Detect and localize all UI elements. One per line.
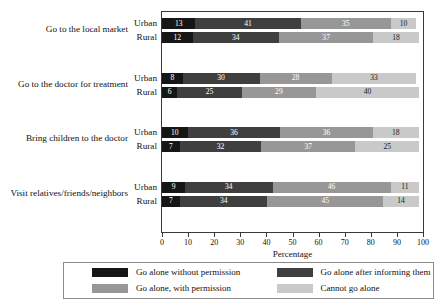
bar-segment-value: 10	[171, 129, 179, 137]
x-axis-tick-label: 70	[341, 238, 349, 247]
row-label-rural: Rural	[137, 32, 157, 43]
bar-segment-value: 36	[230, 129, 238, 137]
bar-segment: 6	[162, 87, 177, 98]
bar-segment: 30	[183, 73, 260, 84]
bar-segment-value: 46	[328, 183, 336, 191]
legend-swatch	[92, 284, 128, 293]
bar-segment: 25	[355, 141, 419, 152]
x-axis-tick	[345, 233, 346, 237]
bar-segment: 10	[162, 127, 188, 138]
bar-segment: 7	[162, 141, 180, 152]
bar-segment-value: 8	[170, 74, 174, 82]
x-axis-tick-label: 60	[315, 238, 323, 247]
bar-segment-value: 10	[400, 20, 408, 28]
x-axis-title: Percentage	[161, 249, 424, 260]
x-axis-tick-label: 30	[236, 238, 244, 247]
bar-segment-value: 7	[169, 143, 173, 151]
category-label: Go to the doctor for treatment	[0, 79, 128, 90]
bar-segment: 14	[383, 196, 419, 207]
legend-swatch	[277, 284, 313, 293]
x-axis-tick-label: 0	[160, 238, 164, 247]
bar-segment: 45	[267, 196, 383, 207]
bar-segment-value: 36	[323, 129, 331, 137]
x-axis-tick	[371, 233, 372, 237]
bar-segment: 36	[188, 127, 281, 138]
bar-segment: 37	[279, 32, 373, 43]
legend-item[interactable]: Go alone without permission	[64, 267, 249, 278]
legend-label: Cannot go alone	[321, 283, 380, 294]
bar-segment: 35	[301, 18, 391, 29]
bar-segment-value: 13	[175, 20, 183, 28]
bar-row: 7344514	[162, 196, 419, 207]
bar-row: 8302833	[162, 73, 419, 84]
category-label: Bring children to the doctor	[0, 133, 128, 144]
bar-segment: 18	[373, 32, 419, 43]
row-label-rural: Rural	[137, 87, 157, 98]
bar-row: 13413510	[162, 18, 419, 29]
bar-segment: 34	[185, 182, 272, 193]
bar-segment-value: 30	[217, 74, 225, 82]
row-label-urban: Urban	[134, 18, 157, 29]
bar-segment-value: 29	[275, 88, 283, 96]
bar-segment-value: 40	[364, 88, 372, 96]
bar-row: 12343718	[162, 32, 419, 43]
bar-row: 9344611	[162, 182, 419, 193]
bar-segment-value: 9	[172, 183, 176, 191]
bar-segment-value: 25	[383, 143, 391, 151]
bar-segment-value: 35	[342, 20, 350, 28]
x-axis-tick	[397, 233, 398, 237]
bar-segment-value: 6	[168, 88, 172, 96]
row-label-rural: Rural	[137, 141, 157, 152]
bar-segment-value: 28	[292, 74, 300, 82]
legend-item[interactable]: Go alone, with permission	[64, 283, 249, 294]
row-label-column: UrbanRuralUrbanRuralUrbanRuralUrbanRural	[128, 11, 159, 233]
x-axis: Percentage 0102030405060708090100	[161, 233, 424, 259]
bar-segment: 8	[162, 73, 183, 84]
bar-segment-value: 14	[397, 197, 405, 205]
bar-segment-value: 45	[321, 197, 329, 205]
bar-segment-value: 18	[392, 129, 400, 137]
bar-segment-value: 34	[232, 34, 240, 42]
x-axis-tick-label: 80	[367, 238, 375, 247]
bar-segment-value: 37	[305, 143, 313, 151]
x-axis-tick	[293, 233, 294, 237]
x-axis-tick-label: 100	[417, 238, 429, 247]
legend-item[interactable]: Go alone after informing them	[249, 267, 434, 278]
x-axis-tick-label: 20	[210, 238, 218, 247]
category-label: Visit relatives/friends/neighbors	[0, 188, 128, 199]
bar-segment: 13	[162, 18, 195, 29]
bar-segment: 12	[162, 32, 193, 43]
legend-label: Go alone without permission	[136, 267, 240, 278]
bar-segment: 28	[260, 73, 332, 84]
bar-segment: 40	[316, 87, 419, 98]
bar-row: 7323725	[162, 141, 419, 152]
x-axis-tick-label: 40	[262, 238, 270, 247]
legend-label: Go alone after informing them	[321, 267, 431, 278]
bar-segment-value: 41	[244, 20, 252, 28]
bar-segment: 37	[261, 141, 355, 152]
bar-segment-value: 32	[217, 143, 225, 151]
legend-item[interactable]: Cannot go alone	[249, 283, 434, 294]
bar-row: 6252940	[162, 87, 419, 98]
x-axis-tick	[162, 233, 163, 237]
x-axis-tick	[423, 233, 424, 237]
category-label-column: Go to the local marketGo to the doctor f…	[0, 11, 128, 233]
x-axis-tick	[266, 233, 267, 237]
x-axis-tick-label: 90	[393, 238, 401, 247]
bar-segment: 46	[273, 182, 391, 193]
bar-segment: 18	[373, 127, 419, 138]
bar-segment-value: 12	[173, 34, 181, 42]
x-axis-tick	[319, 233, 320, 237]
bar-segment: 29	[242, 87, 317, 98]
x-axis-tick	[240, 233, 241, 237]
bar-segment: 7	[162, 196, 180, 207]
bar-segment: 41	[195, 18, 300, 29]
bar-segment-value: 25	[206, 88, 214, 96]
bars-container: 1341351012343718830283362529401036361873…	[162, 12, 419, 232]
x-axis-tick	[214, 233, 215, 237]
bar-segment-value: 34	[225, 183, 233, 191]
bar-segment: 10	[391, 18, 417, 29]
bar-segment-value: 37	[322, 34, 330, 42]
row-label-urban: Urban	[134, 73, 157, 84]
bar-segment: 25	[177, 87, 241, 98]
